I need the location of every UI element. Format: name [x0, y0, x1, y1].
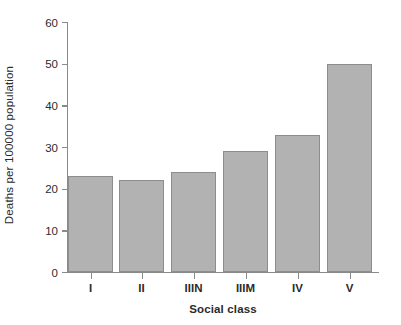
x-tick-label-2: IIIN	[185, 282, 203, 294]
x-tick-3	[246, 272, 247, 279]
bar-category-4[interactable]	[275, 135, 320, 273]
bar-category-1[interactable]	[119, 180, 164, 272]
y-tick-label-40: 40	[45, 100, 58, 112]
x-tick-5	[350, 272, 351, 279]
y-tick-label-20: 20	[45, 183, 58, 195]
bar-category-5[interactable]	[327, 64, 372, 272]
y-axis-title: Deaths per 100000 population	[0, 20, 18, 270]
x-tick-label-1: II	[138, 282, 144, 294]
x-axis-title: Social class	[68, 303, 378, 315]
x-tick-label-5: V	[346, 282, 354, 294]
x-tick-label-0: I	[89, 282, 92, 294]
y-tick-30: 30	[62, 147, 68, 148]
plot-area: 0 10 20 30 40 50 60	[68, 22, 378, 272]
x-tick-label-4: IV	[292, 282, 303, 294]
x-tick-label-3: IIIM	[236, 282, 255, 294]
x-tick-2	[194, 272, 195, 279]
y-tick-40: 40	[62, 105, 68, 106]
bar-category-3[interactable]	[223, 151, 268, 272]
x-tick-0	[91, 272, 92, 279]
y-tick-label-30: 30	[45, 142, 58, 154]
x-tick-4	[298, 272, 299, 279]
bar-category-2[interactable]	[171, 172, 216, 272]
bar-chart-figure: Deaths per 100000 population 0 10 20 30 …	[0, 0, 401, 325]
y-tick-50: 50	[62, 64, 68, 65]
y-tick-label-60: 60	[45, 17, 58, 29]
y-tick-label-50: 50	[45, 58, 58, 70]
y-tick-60: 60	[62, 22, 68, 23]
y-tick-0: 0	[62, 272, 68, 273]
y-tick-label-0: 0	[52, 267, 58, 279]
y-tick-label-10: 10	[45, 225, 58, 237]
bar-category-0[interactable]	[68, 176, 113, 272]
x-tick-1	[142, 272, 143, 279]
